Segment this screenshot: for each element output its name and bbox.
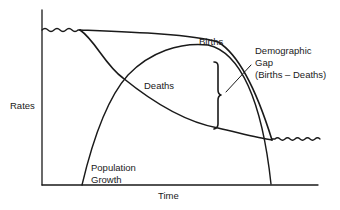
annotation-line1: Demographic: [255, 45, 326, 57]
annotation-line3: (Births – Deaths): [255, 69, 326, 81]
annotation-line2: Gap: [255, 57, 326, 69]
births-label: Births: [199, 36, 223, 48]
x-axis-label: Time: [158, 190, 179, 202]
y-axis-label: Rates: [10, 100, 35, 112]
deaths-label: Deaths: [144, 80, 174, 92]
final-wavy-line: [272, 138, 320, 141]
demographic-transition-diagram: [0, 0, 340, 210]
population-growth-label: Population Growth: [91, 162, 136, 186]
initial-wavy-line: [42, 29, 80, 32]
demographic-gap-annotation: Demographic Gap (Births – Deaths): [255, 45, 326, 81]
demographic-gap-brace: [214, 62, 221, 129]
population-growth-label-line1: Population: [91, 162, 136, 174]
population-growth-label-line2: Growth: [91, 174, 136, 186]
